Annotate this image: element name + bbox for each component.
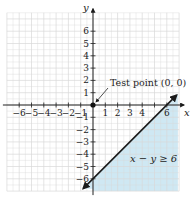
- svg-text:4: 4: [139, 108, 145, 118]
- svg-text:−2: −2: [76, 125, 89, 135]
- test-point-label: Test point (0, 0): [110, 77, 186, 88]
- svg-text:−4: −4: [76, 149, 90, 159]
- svg-text:−6: −6: [76, 174, 90, 184]
- svg-text:1: 1: [102, 108, 108, 118]
- svg-text:−3: −3: [76, 137, 90, 147]
- inequality-graph: −6−5−4−3−2−112346654321−1−2−3−4−5−6 x y …: [0, 0, 193, 203]
- x-axis-label: x: [184, 107, 190, 118]
- svg-text:6: 6: [83, 26, 89, 36]
- svg-text:−1: −1: [76, 112, 89, 122]
- svg-text:2: 2: [115, 108, 121, 118]
- svg-text:5: 5: [83, 39, 89, 49]
- svg-text:6: 6: [164, 108, 170, 118]
- y-axis-label: y: [82, 2, 89, 13]
- svg-text:1: 1: [83, 88, 89, 98]
- svg-text:3: 3: [127, 108, 133, 118]
- svg-text:−5: −5: [76, 162, 90, 172]
- svg-text:2: 2: [83, 75, 89, 85]
- inequality-label: x − y ≥ 6: [130, 153, 178, 164]
- svg-text:3: 3: [83, 63, 89, 73]
- svg-text:−2: −2: [62, 108, 75, 118]
- svg-text:4: 4: [83, 51, 89, 61]
